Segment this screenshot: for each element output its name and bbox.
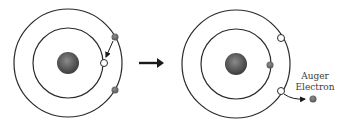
atom-after (182, 10, 317, 118)
inner-shell-electron (267, 62, 274, 69)
outer-shell-vacancy-bottom (278, 88, 285, 95)
emission-arrow (284, 94, 305, 99)
right-arrow-icon (139, 58, 164, 68)
outer-shell-electron-bottom (112, 87, 119, 94)
nucleus (225, 53, 247, 75)
atom-before (14, 9, 122, 117)
outer-shell-electron-top (112, 34, 119, 41)
outer-shell-vacancy-top (278, 35, 285, 42)
auger-diagram (0, 0, 343, 128)
transition-arrow (106, 41, 113, 57)
inner-shell-vacancy (101, 60, 108, 67)
label-line-1: Auger (292, 71, 338, 82)
auger-electron (310, 96, 317, 103)
nucleus (57, 52, 79, 74)
label-line-2: Electron (292, 82, 338, 93)
auger-electron-label: Auger Electron (292, 71, 338, 93)
